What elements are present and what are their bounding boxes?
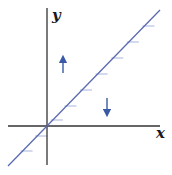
direction-arrows xyxy=(63,59,107,113)
x-axis-label: x xyxy=(155,124,166,142)
diagram-figure: y x xyxy=(0,0,172,175)
diagonal-line xyxy=(8,10,160,166)
y-axis-label: y xyxy=(51,6,62,24)
